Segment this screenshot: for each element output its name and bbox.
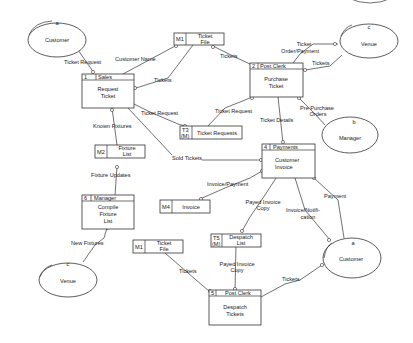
flow-label-customer-name: Customer Name bbox=[115, 56, 156, 62]
process-label: Compile bbox=[98, 204, 119, 210]
flow-label-tickets: Tickets bbox=[282, 276, 300, 282]
process-number: 1 bbox=[84, 74, 87, 80]
entity-id: b bbox=[352, 119, 355, 125]
datastore-m2-fixture-list[interactable]: M2 Fixture List bbox=[95, 145, 145, 158]
entity-venue-top[interactable]: c Venue bbox=[340, 24, 398, 58]
process-1-request-ticket[interactable]: 1 Sales Request Ticket bbox=[82, 74, 134, 108]
flow-label-ticket-details: Ticket Details bbox=[260, 117, 294, 123]
flow-label-known-fixtures: Known Fixtures bbox=[93, 123, 132, 129]
flow-label-new-fixtures: New Fixtures bbox=[71, 240, 104, 246]
process-actor: Post Clerk bbox=[225, 290, 251, 296]
process-number: 4 bbox=[264, 144, 267, 150]
process-label: List bbox=[104, 218, 113, 224]
process-label: Despatch bbox=[223, 304, 247, 310]
process-6-compile-fixture-list[interactable]: 6 Manager Compile Fixture List bbox=[82, 195, 134, 229]
entity-label: Customer bbox=[339, 256, 363, 262]
process-number: 6 bbox=[84, 195, 87, 201]
entity-label: Customer bbox=[45, 37, 69, 43]
flow-label-ticket-order-payment: Ticket bbox=[297, 41, 312, 47]
flow-label-tickets: Tickets bbox=[220, 53, 238, 59]
process-label: Customer bbox=[275, 157, 299, 163]
flow-label-fixture-updates: Fixture Updates bbox=[91, 172, 131, 178]
flow-label-ticket-request: Ticket Request bbox=[141, 110, 179, 116]
process-label: Invoice bbox=[275, 164, 293, 170]
partial-entity-edge bbox=[348, 0, 392, 3]
entity-venue-bottom[interactable]: c Venue bbox=[39, 261, 97, 297]
process-4-customer-invoice[interactable]: 4 Payments Customer Invoice bbox=[262, 144, 315, 178]
flow-label-payment: Payment bbox=[324, 193, 347, 199]
process-number: 2 bbox=[252, 63, 255, 69]
data-flow-diagram: a Customer c Venue b Manager c Venue a C… bbox=[0, 0, 413, 343]
store-label: Invoice bbox=[182, 204, 200, 210]
process-2-purchase-ticket[interactable]: 2 Post Clerk Purchase Ticket bbox=[250, 63, 303, 97]
process-number: 5 bbox=[211, 290, 214, 296]
flow-label-tickets: Tickets bbox=[312, 60, 330, 66]
process-5-despatch-tickets[interactable]: 5 Post Clerk Despatch Tickets bbox=[209, 290, 261, 325]
store-label: List bbox=[237, 240, 246, 246]
entity-customer-top[interactable]: a Customer bbox=[28, 20, 86, 57]
process-label: Request bbox=[98, 86, 119, 92]
datastore-t3-ticket-requests[interactable]: T3 (M) Ticket Requests bbox=[180, 126, 242, 139]
process-label: Tickets bbox=[226, 311, 244, 317]
entity-label: Venue bbox=[60, 278, 76, 284]
process-actor: Post Clerk bbox=[260, 63, 286, 69]
flow-label-payed-invoice-copy: Copy bbox=[256, 205, 269, 211]
flow-label-tickets: Tickets bbox=[179, 268, 197, 274]
datastore-m4-invoice[interactable]: M4 Invoice bbox=[160, 200, 210, 213]
store-label: File bbox=[200, 39, 209, 45]
store-label: File bbox=[159, 246, 168, 252]
flow-label-ticket-order-payment: Order/Payment bbox=[281, 48, 319, 54]
store-id: (M) bbox=[212, 241, 221, 247]
process-label: Ticket bbox=[269, 83, 284, 89]
store-id: (M) bbox=[181, 133, 190, 139]
flow-label-payed-invoice-copy: Copy bbox=[230, 267, 243, 273]
process-label: Purchase bbox=[264, 76, 288, 82]
flow-label-invoice-notification: Invoice/Notifi- bbox=[286, 207, 320, 213]
store-label: Ticket Requests bbox=[197, 130, 237, 136]
flow-label-pre-purchase-orders: Orders bbox=[309, 111, 326, 117]
store-id: M1 bbox=[135, 244, 143, 250]
store-id: M1 bbox=[176, 36, 184, 42]
datastore-t5-despatch-list[interactable]: T5 (M) Despatch List bbox=[211, 234, 261, 247]
process-actor: Sales bbox=[98, 74, 112, 80]
process-actor: Payments bbox=[273, 144, 298, 150]
process-label: Ticket bbox=[101, 93, 116, 99]
entity-label: Manager bbox=[339, 135, 361, 141]
flow-label-invoice-payment: Invoice/Payment bbox=[207, 181, 249, 187]
process-label: Fixture bbox=[99, 211, 116, 217]
entity-manager[interactable]: b Manager bbox=[322, 117, 378, 153]
flow-label-invoice-notification: cation bbox=[301, 214, 316, 220]
datastore-m1-ticket-file-bottom[interactable]: M1 Ticket File bbox=[133, 240, 183, 253]
flow-label-tickets: Tickets bbox=[154, 77, 172, 83]
flow-label-sold-tickets: Sold Tickets bbox=[172, 155, 202, 161]
store-id: M4 bbox=[162, 204, 170, 210]
entity-label: Venue bbox=[361, 41, 377, 47]
entity-id: c bbox=[67, 261, 70, 267]
flow-label-ticket-request: Ticket Request bbox=[64, 59, 102, 65]
datastore-m1-ticket-file-top[interactable]: M1 Ticket File bbox=[174, 33, 224, 45]
process-actor: Manager bbox=[94, 195, 116, 201]
store-label: List bbox=[123, 151, 132, 157]
flow-label-ticket-request: Ticket Request bbox=[215, 108, 253, 114]
entity-id: c bbox=[368, 24, 371, 30]
store-id: M2 bbox=[97, 149, 105, 155]
entity-customer-bottom[interactable]: a Customer bbox=[323, 238, 381, 278]
